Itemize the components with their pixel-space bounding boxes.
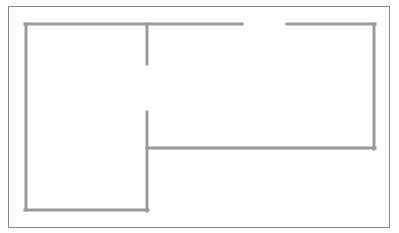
floor-plan	[0, 0, 399, 233]
